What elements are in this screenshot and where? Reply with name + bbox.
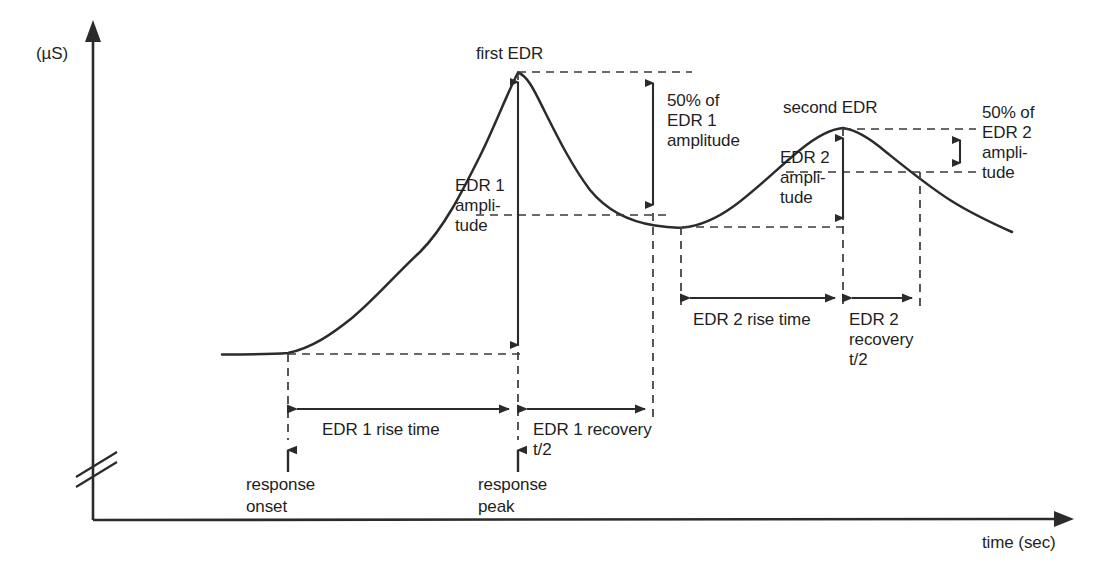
y-axis-arrowhead bbox=[85, 20, 101, 42]
y-axis bbox=[85, 20, 101, 520]
x-axis bbox=[93, 511, 1074, 527]
first-edr-label: first EDR bbox=[476, 44, 543, 63]
edr1-rise-time-label: EDR 1 rise time bbox=[322, 420, 440, 439]
x-axis-label: time (sec) bbox=[982, 533, 1056, 552]
y-axis-unit-label: (µS) bbox=[36, 44, 68, 63]
second-edr-label: second EDR bbox=[783, 98, 877, 117]
axis-break-icon bbox=[76, 452, 117, 487]
edr-diagram-figure: (µS) time (sec) first EDR second EDR EDR… bbox=[0, 0, 1109, 572]
edr2-rise-time-label: EDR 2 rise time bbox=[693, 310, 811, 329]
dashed-reference-lines bbox=[288, 72, 976, 440]
diagram-canvas bbox=[0, 0, 1109, 572]
x-axis-arrowhead bbox=[1054, 511, 1074, 527]
